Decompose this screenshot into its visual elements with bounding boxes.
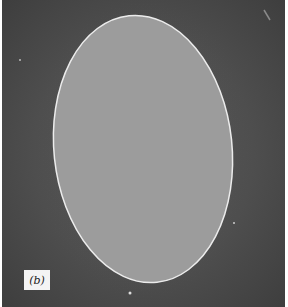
micrograph-panel: (b) <box>2 0 285 307</box>
panel-label: (b) <box>24 270 50 290</box>
cell-ellipse-graphic <box>2 0 285 307</box>
